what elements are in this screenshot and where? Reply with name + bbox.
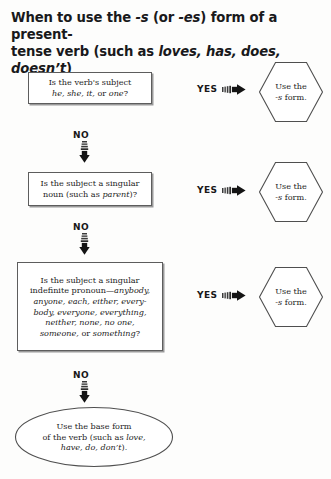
result-hexagon-2-label: Use the -s form. bbox=[258, 161, 324, 223]
question-examples: he, she, it, bbox=[52, 88, 95, 98]
result-hexagon-3-label: Use the -s form. bbox=[258, 266, 324, 328]
result-line: form. bbox=[282, 92, 307, 102]
title-text: tense verb (such as bbox=[11, 44, 159, 59]
result-line: form. bbox=[282, 297, 307, 307]
final-line: ). bbox=[122, 442, 128, 452]
question-line: Is the subject a singular bbox=[41, 275, 140, 285]
question-line: ? bbox=[136, 328, 140, 338]
result-hexagon-1-label: Use the -s form. bbox=[258, 61, 324, 123]
final-result-text: Use the base form of the verb (such as l… bbox=[26, 421, 161, 453]
yes-arrow-icon-2 bbox=[222, 185, 246, 196]
no-label-1: NO bbox=[73, 130, 89, 140]
final-line: of the verb (such as bbox=[42, 432, 126, 442]
no-arrow-icon-2 bbox=[79, 233, 90, 255]
question-examples: neither, none, no one, bbox=[45, 317, 134, 327]
final-examples: have, do, don’t bbox=[61, 442, 122, 452]
no-arrow-icon-1 bbox=[79, 141, 90, 163]
flowchart-page: When to use the -s (or -es) form of a pr… bbox=[0, 0, 331, 479]
question-examples: something bbox=[93, 328, 136, 338]
result-line: Use the bbox=[275, 181, 307, 191]
yes-arrow-icon-3 bbox=[222, 290, 246, 301]
question-examples: someone, bbox=[40, 328, 79, 338]
question-examples: body, everyone, everything, bbox=[33, 307, 146, 317]
no-label-3: NO bbox=[73, 370, 89, 380]
question-examples: one bbox=[109, 88, 124, 98]
question-line: Is the subject a singular bbox=[41, 178, 140, 188]
question-box-1[interactable]: Is the verb's subject he, she, it, or on… bbox=[28, 72, 152, 104]
no-label-2: NO bbox=[73, 222, 89, 232]
result-line: form. bbox=[282, 192, 307, 202]
yes-label-2: YES bbox=[197, 185, 217, 195]
title-text: (or bbox=[148, 10, 178, 25]
question-line: indefinite pronoun— bbox=[30, 285, 114, 295]
result-line: Use the bbox=[275, 81, 307, 91]
question-examples: anyone, each, either, every- bbox=[33, 296, 146, 306]
yes-label-3: YES bbox=[197, 290, 217, 300]
result-line: Use the bbox=[275, 286, 307, 296]
question-line: or bbox=[95, 88, 109, 98]
result-hexagon-1[interactable]: Use the -s form. bbox=[258, 61, 324, 123]
result-hexagon-2[interactable]: Use the -s form. bbox=[258, 161, 324, 223]
question-examples: anybody, bbox=[114, 285, 150, 295]
final-line: Use the base form bbox=[56, 421, 131, 431]
final-result-label: Use the base form of the verb (such as l… bbox=[14, 406, 174, 468]
question-box-1-text: Is the verb's subject he, she, it, or on… bbox=[29, 77, 151, 98]
final-examples: love, bbox=[126, 432, 145, 442]
question-box-3-text: Is the subject a singular indefinite pro… bbox=[18, 275, 162, 339]
title-text: When to use the bbox=[11, 10, 135, 25]
title-suffix-s: -s bbox=[135, 10, 148, 25]
final-result-oval[interactable]: Use the base form of the verb (such as l… bbox=[14, 406, 174, 468]
question-line: noun (such as bbox=[43, 189, 102, 199]
yes-label-1: YES bbox=[197, 84, 217, 94]
result-text: Use the -s form. bbox=[275, 286, 307, 307]
question-line: ? bbox=[124, 88, 128, 98]
question-box-2-text: Is the subject a singular noun (such as … bbox=[29, 178, 151, 199]
result-text: Use the -s form. bbox=[275, 181, 307, 202]
yes-arrow-icon-1 bbox=[222, 84, 246, 95]
question-line: Is the verb's subject bbox=[49, 77, 132, 87]
question-line: )? bbox=[130, 189, 138, 199]
question-line: or bbox=[79, 328, 93, 338]
result-hexagon-3[interactable]: Use the -s form. bbox=[258, 266, 324, 328]
question-examples: parent bbox=[102, 189, 129, 199]
title-suffix-es: -es bbox=[178, 10, 200, 25]
question-box-2[interactable]: Is the subject a singular noun (such as … bbox=[28, 172, 152, 206]
question-box-3[interactable]: Is the subject a singular indefinite pro… bbox=[17, 262, 163, 351]
no-arrow-icon-3 bbox=[79, 381, 90, 403]
title-line-1: When to use the -s (or -es) form of a pr… bbox=[11, 10, 277, 42]
result-text: Use the -s form. bbox=[275, 81, 307, 102]
